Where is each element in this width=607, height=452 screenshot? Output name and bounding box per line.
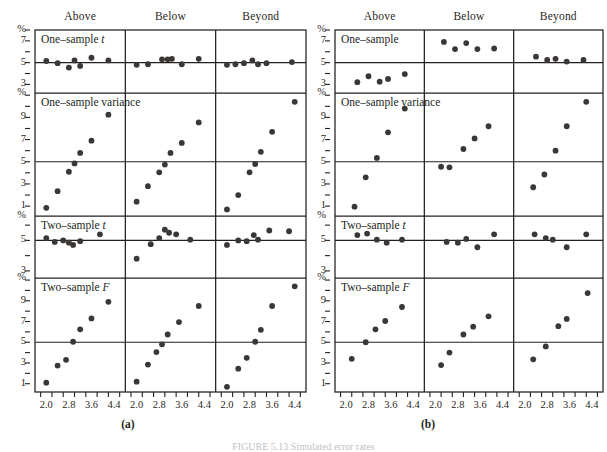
data-point — [491, 46, 497, 52]
y-tick-label: 5 — [302, 156, 326, 167]
data-point — [543, 235, 549, 241]
data-point — [399, 237, 405, 243]
data-point — [474, 46, 480, 52]
data-point — [374, 237, 380, 243]
y-tick-label: 9 — [302, 295, 326, 306]
y-tick-label: 1 — [302, 378, 326, 389]
subfigure-label: (b) — [408, 418, 448, 430]
panel-title: Two–sample F — [341, 282, 410, 294]
y-tick-label: 7 — [302, 35, 326, 46]
data-point — [585, 290, 591, 296]
data-point — [438, 362, 444, 368]
data-point — [377, 79, 383, 85]
data-point — [363, 339, 369, 345]
data-point — [491, 231, 497, 237]
data-point — [438, 164, 444, 170]
data-point — [447, 350, 453, 356]
data-point — [564, 59, 570, 65]
data-point — [564, 123, 570, 129]
data-point — [354, 79, 360, 85]
data-point — [553, 148, 559, 154]
data-point — [382, 318, 388, 324]
data-point — [486, 123, 492, 129]
data-point — [402, 71, 408, 77]
y-tick-label: 3 — [302, 357, 326, 368]
data-point — [441, 39, 447, 45]
data-point — [385, 76, 391, 82]
y-tick-label: 5 — [302, 336, 326, 347]
y-tick-label: % — [302, 210, 326, 221]
data-point — [530, 184, 536, 190]
data-point — [463, 40, 469, 46]
data-point — [583, 231, 589, 237]
y-tick-label: 7 — [302, 134, 326, 145]
y-tick-label: 3 — [302, 178, 326, 189]
data-point — [352, 204, 358, 210]
y-tick-label: 5 — [302, 57, 326, 68]
x-tick-label: 4.4 — [578, 400, 606, 411]
data-point — [349, 356, 355, 362]
data-point — [461, 332, 467, 338]
y-tick-label: 7 — [302, 316, 326, 327]
data-point — [444, 239, 450, 245]
data-point — [541, 172, 547, 178]
data-point — [555, 323, 561, 329]
y-tick-label: 9 — [302, 111, 326, 122]
data-point — [550, 237, 556, 243]
data-point — [385, 129, 391, 135]
data-point — [374, 155, 380, 161]
data-point — [530, 356, 536, 362]
data-point — [363, 174, 369, 180]
data-point — [564, 316, 570, 322]
y-tick-label: % — [302, 272, 326, 283]
data-point — [532, 231, 538, 237]
y-tick-label: 5 — [302, 234, 326, 245]
data-point — [399, 304, 405, 310]
data-point — [543, 344, 549, 350]
data-point — [384, 240, 390, 246]
data-point — [583, 99, 589, 105]
y-tick-label: % — [302, 87, 326, 98]
data-point — [581, 57, 587, 63]
data-point — [474, 244, 480, 250]
data-point — [461, 146, 467, 152]
data-point — [533, 54, 539, 60]
panel-title: Two–sample t — [341, 220, 406, 232]
data-point — [486, 313, 492, 319]
data-point — [472, 136, 478, 142]
figure-caption: FIGURE 5.13 Simulated error rates — [0, 441, 607, 452]
data-point — [564, 244, 570, 250]
panel-title: One–sample — [341, 34, 398, 46]
data-point — [455, 240, 461, 246]
data-point — [364, 231, 370, 237]
data-point — [373, 326, 379, 332]
data-point — [354, 232, 360, 238]
data-point — [544, 57, 550, 63]
data-point — [447, 164, 453, 170]
data-point — [470, 324, 476, 330]
data-point — [463, 236, 469, 242]
data-point — [366, 73, 372, 79]
panel-title: One–sample variance — [341, 97, 440, 109]
data-point — [452, 46, 458, 52]
data-point — [553, 56, 559, 62]
y-tick-label: % — [302, 24, 326, 35]
